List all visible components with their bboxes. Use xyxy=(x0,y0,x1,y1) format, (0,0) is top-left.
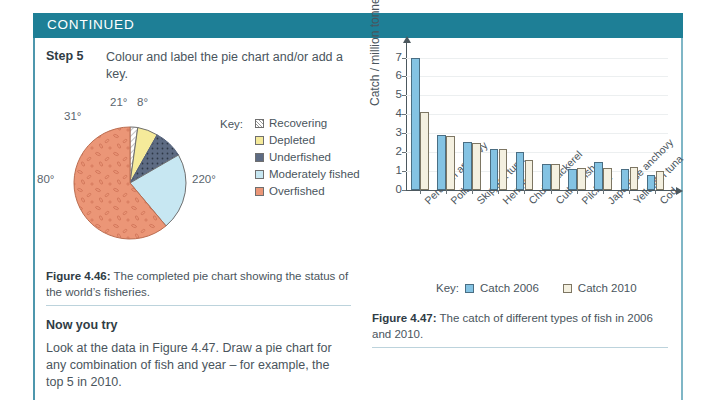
x-axis-tick-mark xyxy=(524,190,525,194)
bar-2006 xyxy=(542,164,551,190)
grid-line xyxy=(406,133,668,134)
pie-legend-item-recovering: Recovering xyxy=(255,117,327,129)
overfished-swatch-icon xyxy=(255,187,264,196)
grid-line xyxy=(406,76,668,77)
y-axis-tick-label: 0 xyxy=(390,183,402,195)
x-axis-tick-mark xyxy=(446,190,447,194)
x-axis-tick-mark xyxy=(420,190,421,194)
bar-chart-figure: Catch / million tonnes 01234567Peruvian … xyxy=(372,44,682,294)
pie-legend-item-depleted: Depleted xyxy=(255,134,315,146)
bar-legend-label-2010: Catch 2010 xyxy=(578,282,637,294)
bar-2010 xyxy=(420,112,429,191)
bar-2006 xyxy=(463,142,472,190)
bar-2006 xyxy=(621,169,630,190)
y-axis-tick-mark xyxy=(402,95,406,96)
bar-2010 xyxy=(446,136,455,190)
pie-angle-label-overfished: 220° xyxy=(192,173,216,185)
x-axis-tick-mark xyxy=(629,190,630,194)
grid-line xyxy=(406,95,668,96)
figure-447-label: Figure 4.47: xyxy=(372,312,437,324)
bar-2006 xyxy=(437,135,446,190)
continued-header-bar: CONTINUED xyxy=(33,13,683,38)
bar-2006 xyxy=(568,169,577,190)
pie-legend-item-overfished: Overfished xyxy=(255,185,325,197)
x-axis-tick-mark xyxy=(655,190,656,194)
pie-angle-label-underfished: 31° xyxy=(64,110,81,122)
pie-angle-label-recovering: 8° xyxy=(137,96,148,108)
y-axis-tick-mark xyxy=(402,152,406,153)
pie-angle-label-moderately-fished: 80° xyxy=(37,173,54,185)
y-axis-tick-mark xyxy=(402,58,406,59)
figure-447-caption: Figure 4.47: The catch of different type… xyxy=(372,311,672,342)
y-axis-tick-label: 1 xyxy=(390,164,402,176)
y-axis-tick-label: 7 xyxy=(390,51,402,63)
y-axis-tick-label: 2 xyxy=(390,145,402,157)
depleted-swatch-icon xyxy=(255,136,264,145)
catch-2010-swatch-icon xyxy=(563,284,572,293)
y-axis-arrow-icon xyxy=(403,36,411,43)
catch-2006-swatch-icon xyxy=(465,284,474,293)
y-axis-tick-mark xyxy=(402,114,406,115)
pie-legend-label: Recovering xyxy=(269,117,327,129)
underfished-swatch-icon xyxy=(255,153,264,162)
y-axis-tick-label: 6 xyxy=(390,69,402,81)
bar-2010 xyxy=(603,168,612,190)
bar-2006 xyxy=(647,175,656,190)
left-column-divider xyxy=(46,305,351,306)
bar-legend-label-2006: Catch 2006 xyxy=(480,282,539,294)
y-axis-tick-label: 5 xyxy=(390,88,402,100)
x-axis-tick-mark xyxy=(498,190,499,194)
y-axis-tick-mark xyxy=(402,171,406,172)
bar-2006 xyxy=(594,162,603,190)
y-axis-tick-label: 3 xyxy=(390,126,402,138)
textbook-page: CONTINUED Step 5 Colour and label the pi… xyxy=(0,0,706,400)
bar-legend-title: Key: xyxy=(436,282,459,294)
header-title: CONTINUED xyxy=(47,17,134,32)
grid-line xyxy=(406,114,668,115)
pie-legend-item-moderately-fished: Moderately fished xyxy=(255,168,360,180)
bar-2006 xyxy=(411,58,420,190)
pie-legend-title: Key: xyxy=(220,118,243,130)
recovering-swatch-icon xyxy=(255,119,264,128)
pie-legend-label: Underfished xyxy=(269,151,331,163)
y-axis-tick-mark xyxy=(402,76,406,77)
grid-line xyxy=(406,58,668,59)
x-axis-tick-mark xyxy=(551,190,552,194)
bar-2010 xyxy=(577,168,586,190)
bar-chart-plot-area: 01234567Peruvian anchovyPollackSkipjack … xyxy=(406,50,668,190)
x-axis-tick-mark xyxy=(577,190,578,194)
x-axis-tick-mark xyxy=(472,190,473,194)
bar-2006 xyxy=(516,152,525,190)
pie-chart-figure: 8° 21° 31° 80° 220° Key: Recovering Depl… xyxy=(40,96,370,261)
bar-2010 xyxy=(525,160,534,190)
right-column-divider xyxy=(372,347,668,348)
bar-chart-legend: Key: Catch 2006 Catch 2010 xyxy=(436,282,637,294)
figure-446-caption: Figure 4.46: The completed pie chart sho… xyxy=(46,269,358,300)
pie-legend-label: Overfished xyxy=(269,185,325,197)
page-left-border xyxy=(33,13,35,400)
bar-2010 xyxy=(656,171,665,190)
bar-2006 xyxy=(490,149,499,190)
step-label: Step 5 xyxy=(46,49,84,63)
bar-2010 xyxy=(630,167,639,190)
bar-2010 xyxy=(472,143,481,190)
pie-legend-item-underfished: Underfished xyxy=(255,151,331,163)
y-axis-tick-mark xyxy=(402,190,406,191)
bar-2010 xyxy=(551,164,560,190)
bar-chart-y-axis-label: Catch / million tonnes xyxy=(368,0,382,106)
bar-2010 xyxy=(499,149,508,190)
y-axis-tick-mark xyxy=(402,133,406,134)
step-text: Colour and label the pie chart and/or ad… xyxy=(106,49,356,83)
now-you-try-title: Now you try xyxy=(46,318,118,332)
pie-legend-label: Moderately fished xyxy=(269,168,360,180)
moderately-fished-swatch-icon xyxy=(255,170,264,179)
x-axis-tick-mark xyxy=(603,190,604,194)
pie-angle-label-depleted: 21° xyxy=(110,96,127,108)
y-axis-tick-label: 4 xyxy=(390,107,402,119)
figure-446-label: Figure 4.46: xyxy=(46,270,111,282)
pie-legend-label: Depleted xyxy=(269,134,315,146)
now-you-try-text: Look at the data in Figure 4.47. Draw a … xyxy=(46,340,346,391)
